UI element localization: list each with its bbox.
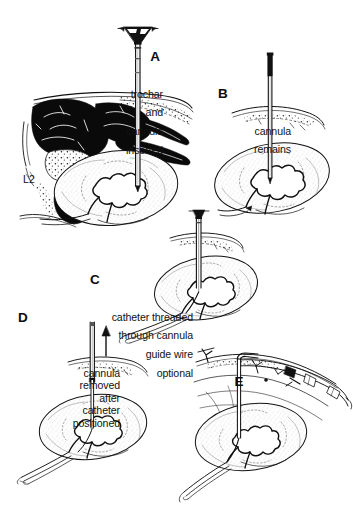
panel-d-letter: D xyxy=(18,310,28,326)
panel-b-letter: B xyxy=(218,86,291,102)
panel-d-caption-text: cannula removed after catheter positione… xyxy=(8,367,120,430)
panel-e-letter: E xyxy=(224,374,254,390)
nephrostomy-figure: A trochar and cannula inserted B cannula… xyxy=(0,0,353,517)
panel-e-caption: E xyxy=(224,336,254,427)
panel-c-letter: C xyxy=(90,272,193,288)
panel-a-letter: A xyxy=(48,49,160,65)
panel-a-caption-text: trochar and cannula inserted xyxy=(126,88,163,157)
panel-b-caption-text: cannula remains xyxy=(254,125,291,156)
panel-a-caption: A trochar and cannula inserted xyxy=(48,11,163,178)
panel-e-illustration xyxy=(179,348,352,502)
panel-c-caption-text: catheter threaded through cannula guide … xyxy=(112,311,193,380)
vertebra-label-l2: L2 xyxy=(23,174,35,185)
panel-d-caption: D cannula removed after catheter positio… xyxy=(8,310,120,467)
panel-b-caption: B cannula remains xyxy=(196,48,291,177)
